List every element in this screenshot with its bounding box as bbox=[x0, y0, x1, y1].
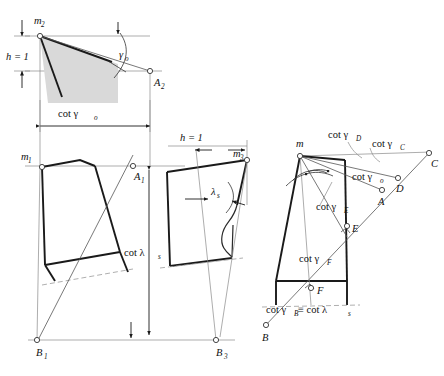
label-lambda-s-sub: s bbox=[217, 192, 220, 200]
label-A2: A bbox=[153, 77, 161, 88]
right-horizontal-top bbox=[300, 152, 432, 156]
label-cot-gamma-C-sub: C bbox=[400, 144, 405, 152]
figure-container: m 2 h = 1 γ o cot γ o A 2 bbox=[0, 0, 444, 376]
label-cot-gamma-E: cot γ bbox=[316, 201, 336, 212]
label-m1-sub: 1 bbox=[28, 157, 32, 165]
right-angle-dot-2 bbox=[327, 170, 329, 172]
right-left-edge bbox=[276, 156, 300, 281]
bl-bottom-left-stub bbox=[45, 265, 55, 281]
middle-panel: h = 1 m 3 λ s B 3 bbox=[160, 132, 250, 361]
right-top-short bbox=[300, 156, 345, 160]
label-cot-gamma-B: cot γ bbox=[266, 304, 286, 315]
top-left-panel: m 2 h = 1 γ o cot γ o A 2 bbox=[6, 15, 165, 166]
node-E bbox=[344, 223, 349, 228]
geometry-diagram: m 2 h = 1 γ o cot γ o A 2 bbox=[0, 0, 444, 376]
label-cot-gamma-F-sub: F bbox=[326, 259, 332, 267]
mid-bottom-edge bbox=[170, 258, 232, 266]
node-m1 bbox=[39, 164, 44, 169]
node-B bbox=[263, 322, 268, 327]
label-lambda-s: λ bbox=[210, 186, 216, 197]
label-F: F bbox=[316, 285, 324, 296]
label-m: m bbox=[296, 138, 304, 149]
right-angle-arc-outer bbox=[286, 172, 333, 186]
mid-vertical-center bbox=[196, 150, 216, 340]
label-gamma0-sub: o bbox=[125, 55, 129, 63]
label-cot-gamma0-sub: o bbox=[94, 114, 98, 122]
right-ray-m-E bbox=[300, 156, 347, 237]
node-D bbox=[395, 175, 400, 180]
right-angle-dot-1 bbox=[305, 173, 307, 175]
right-angle-arc-mid bbox=[293, 170, 327, 180]
bl-dashed-baseline bbox=[42, 269, 133, 285]
node-B3 bbox=[213, 337, 218, 342]
label-cot-gamma-B-tail: ≡ cot λ bbox=[298, 304, 328, 315]
node-A1 bbox=[130, 163, 135, 168]
right-panel: m cot γ D cot γ C cot γ o cot γ E cot γ … bbox=[262, 129, 439, 343]
label-cot-gamma-F: cot γ bbox=[299, 253, 319, 264]
node-m2 bbox=[37, 33, 42, 38]
label-B1-sub: 1 bbox=[44, 353, 48, 361]
label-cot-gamma-D-sub: D bbox=[355, 135, 362, 143]
label-gamma0: γ bbox=[119, 49, 124, 60]
node-A bbox=[379, 187, 384, 192]
mid-s-curve bbox=[222, 205, 237, 257]
label-B3: B bbox=[216, 347, 223, 358]
node-A2 bbox=[147, 68, 152, 73]
node-B1 bbox=[34, 337, 39, 342]
label-C: C bbox=[431, 158, 439, 169]
node-m3 bbox=[244, 157, 249, 162]
leader-cot-gamma-D bbox=[348, 142, 362, 158]
bl-right-edge bbox=[95, 166, 120, 252]
right-ray-m-F bbox=[300, 156, 311, 305]
mid-right-upper bbox=[237, 160, 247, 205]
leader-cot-gamma-C bbox=[370, 148, 380, 162]
bottom-left-panel: m 1 A 1 B 1 cot λ s bbox=[21, 151, 235, 361]
label-A2-sub: 2 bbox=[161, 83, 165, 91]
label-D: D bbox=[395, 183, 404, 194]
label-B3-sub: 3 bbox=[223, 353, 228, 361]
label-cot-gamma0: cot γ bbox=[58, 108, 78, 119]
label-mid-h: h = 1 bbox=[180, 132, 203, 143]
bl-vertical-left bbox=[37, 166, 40, 340]
label-h-equals-1: h = 1 bbox=[6, 51, 29, 62]
label-E: E bbox=[351, 223, 359, 234]
right-ray-m-D bbox=[300, 156, 398, 178]
label-A1: A bbox=[133, 171, 141, 182]
label-cot-gamma-B-tail-sub: s bbox=[348, 310, 351, 318]
label-cot-gamma-o-sub: o bbox=[380, 177, 384, 185]
label-cot-lambda-s-sub: s bbox=[158, 253, 161, 261]
label-m3-sub: 3 bbox=[239, 154, 244, 162]
label-cot-gamma-o: cot γ bbox=[352, 171, 372, 182]
node-C bbox=[426, 150, 431, 155]
mid-angle-arc bbox=[226, 182, 233, 213]
bl-left-edge bbox=[42, 167, 45, 265]
label-cot-gamma-E-sub: E bbox=[343, 207, 349, 215]
label-B1: B bbox=[36, 347, 43, 358]
right-right-edge bbox=[345, 160, 347, 281]
label-cot-lambda-s: cot λ bbox=[124, 247, 145, 258]
label-cot-gamma-C: cot γ bbox=[372, 138, 392, 149]
node-F bbox=[308, 285, 313, 290]
label-A1-sub: 1 bbox=[141, 177, 145, 185]
label-cot-gamma-D: cot γ bbox=[328, 129, 348, 140]
label-B: B bbox=[262, 332, 269, 343]
node-m bbox=[297, 153, 302, 158]
label-A: A bbox=[377, 196, 385, 207]
mid-left-edge bbox=[167, 172, 170, 266]
label-m2-sub: 2 bbox=[41, 21, 45, 29]
